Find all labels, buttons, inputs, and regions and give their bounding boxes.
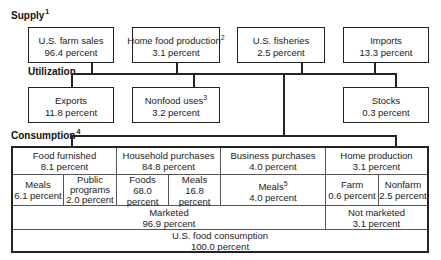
box-name: U.S. farm sales — [39, 35, 104, 46]
cell-name: Nonfarm — [385, 179, 421, 190]
box-value: 96.4 percent — [45, 47, 98, 59]
supply-box-fisheries: U.S. fisheries 2.5 percent — [237, 27, 325, 63]
box-value: 13.3 percent — [360, 47, 413, 59]
box-name: Nonfood uses — [145, 95, 204, 106]
subcategory-meals-business: Meals5 4.0 percent — [221, 175, 326, 206]
cell-name: Farm — [341, 179, 363, 190]
cell-name: Not marketed — [348, 207, 405, 218]
consumption-table: Food furnished 8.1 percent Household pur… — [11, 146, 429, 253]
cell-name: Meals — [258, 181, 283, 192]
consumption-label: Consumption4 — [11, 128, 80, 141]
subcategory-public-programs: Public programs 2.0 percent — [64, 175, 117, 206]
cell-name: Home production — [340, 150, 412, 161]
category-business-purchases: Business purchases 4.0 percent — [221, 148, 326, 175]
cell-name: Business purchases — [230, 150, 315, 161]
subcategory-foods: Foods 68.0 percent — [117, 175, 169, 206]
cell-value: 16.8 percent — [169, 185, 220, 207]
utilization-box-nonfood-uses: Nonfood uses3 3.2 percent — [132, 87, 220, 123]
not-marketed-cell: Not marketed 3.1 percent — [326, 206, 427, 230]
cell-name: Food furnished — [33, 150, 96, 161]
connector-line — [395, 73, 397, 88]
cell-name: Meals — [182, 174, 207, 185]
subcategory-nonfarm: Nonfarm 2.5 percent — [379, 175, 427, 206]
box-name: U.S. fisheries — [253, 35, 310, 46]
supply-box-home-food-production: Home food production2 3.1 percent — [132, 27, 220, 63]
box-name: Exports — [55, 95, 87, 106]
consumption-footnote: 4 — [76, 128, 80, 135]
utilization-label-text: Utilization — [28, 66, 76, 77]
cell-name: Household purchases — [123, 150, 215, 161]
cell-value: 96.9 percent — [143, 218, 196, 229]
box-name: Home food production — [127, 35, 220, 46]
cell-value: 4.0 percent — [249, 192, 297, 203]
consumption-label-text: Consumption — [11, 130, 75, 141]
cell-value: 2.5 percent — [379, 190, 427, 201]
utilization-bus-line — [71, 73, 397, 75]
cell-value: 100.0 percent — [191, 241, 249, 252]
box-footnote: 3 — [203, 94, 207, 101]
cell-footnote: 5 — [284, 180, 288, 187]
cell-value: 84.8 percent — [142, 161, 195, 172]
supply-footnote: 1 — [45, 8, 49, 15]
subcategory-meals-household: Meals 16.8 percent — [169, 175, 221, 206]
utilization-box-exports: Exports 11.8 percent — [28, 87, 114, 123]
box-name: Stocks — [372, 95, 401, 106]
subcategory-farm: Farm 0.6 percent — [326, 175, 379, 206]
cell-name: Marketed — [149, 207, 189, 218]
box-value: 11.8 percent — [45, 107, 97, 119]
total-consumption-cell: U.S. food consumption 100.0 percent — [13, 230, 427, 251]
cell-value: 0.6 percent — [328, 190, 376, 201]
cell-value: 3.1 percent — [353, 218, 401, 229]
box-value: 2.5 percent — [257, 47, 305, 59]
cell-value: 6.1 percent — [14, 190, 62, 201]
cell-value: 68.0 percent — [117, 185, 168, 207]
supply-box-farm-sales: U.S. farm sales 96.4 percent — [28, 27, 114, 63]
box-value: 3.1 percent — [152, 47, 200, 59]
utilization-label: Utilization — [28, 66, 76, 77]
cell-value: 8.1 percent — [41, 161, 89, 172]
consumption-trunk-line — [283, 73, 285, 136]
category-household-purchases: Household purchases 84.8 percent — [117, 148, 221, 175]
box-footnote: 2 — [221, 34, 225, 41]
category-food-furnished: Food furnished 8.1 percent — [13, 148, 117, 175]
cell-value: 4.0 percent — [249, 161, 297, 172]
box-value: 0.3 percent — [362, 107, 410, 119]
supply-label: Supply1 — [11, 8, 49, 21]
marketed-cell: Marketed 96.9 percent — [13, 206, 326, 230]
utilization-box-stocks: Stocks 0.3 percent — [343, 87, 429, 123]
connector-line — [71, 73, 73, 88]
supply-label-text: Supply — [11, 10, 44, 21]
box-value: 3.2 percent — [152, 107, 200, 119]
cell-name: Meals — [25, 179, 50, 190]
cell-name: U.S. food consumption — [172, 230, 268, 241]
supply-box-imports: Imports 13.3 percent — [343, 27, 429, 63]
box-name: Imports — [370, 35, 402, 46]
category-home-production: Home production 3.1 percent — [326, 148, 427, 175]
cell-value: 3.1 percent — [353, 161, 401, 172]
subcategory-meals-furnished: Meals 6.1 percent — [13, 175, 64, 206]
cell-name: Foods — [129, 174, 155, 185]
connector-line — [193, 73, 195, 88]
cell-name: Public programs — [68, 175, 112, 195]
cell-value: 2.0 percent — [66, 195, 114, 205]
consumption-bracket-line — [71, 135, 397, 137]
